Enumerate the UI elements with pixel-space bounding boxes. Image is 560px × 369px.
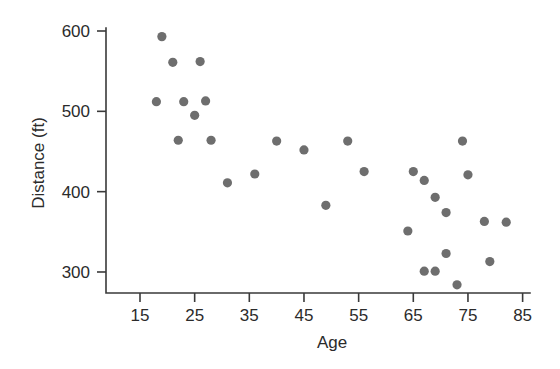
data-point bbox=[420, 176, 429, 185]
y-tick-label: 400 bbox=[62, 183, 90, 202]
data-point bbox=[343, 136, 352, 145]
x-tick-label: 85 bbox=[513, 306, 532, 325]
x-tick-label: 15 bbox=[131, 306, 150, 325]
data-point bbox=[196, 57, 205, 66]
x-tick-label: 25 bbox=[185, 306, 204, 325]
axes: 300400500600 1525354555657585 bbox=[62, 22, 532, 325]
x-tick-label: 65 bbox=[404, 306, 423, 325]
data-point bbox=[409, 167, 418, 176]
data-point bbox=[431, 193, 440, 202]
data-point bbox=[174, 136, 183, 145]
y-tick-label: 600 bbox=[62, 22, 90, 41]
x-tick-label: 55 bbox=[349, 306, 368, 325]
data-point bbox=[250, 169, 259, 178]
data-point bbox=[201, 96, 210, 105]
scatter-plot-figure: 300400500600 1525354555657585 Age Distan… bbox=[0, 0, 560, 369]
data-point bbox=[168, 58, 177, 67]
data-point bbox=[299, 145, 308, 154]
data-point bbox=[441, 249, 450, 258]
data-point bbox=[485, 257, 494, 266]
x-tick-label: 35 bbox=[240, 306, 259, 325]
data-point bbox=[321, 201, 330, 210]
data-point bbox=[190, 111, 199, 120]
plot-svg: 300400500600 1525354555657585 Age Distan… bbox=[0, 0, 560, 369]
data-point bbox=[431, 267, 440, 276]
data-point bbox=[452, 280, 461, 289]
y-axis-ticks bbox=[97, 31, 106, 272]
data-point bbox=[272, 136, 281, 145]
data-point bbox=[360, 167, 369, 176]
x-axis-title: Age bbox=[317, 333, 347, 352]
data-point bbox=[420, 267, 429, 276]
axis-lines bbox=[106, 28, 530, 293]
data-point bbox=[152, 97, 161, 106]
data-point bbox=[463, 170, 472, 179]
data-point bbox=[480, 217, 489, 226]
data-point bbox=[157, 32, 166, 41]
y-axis-title: Distance (ft) bbox=[29, 117, 48, 209]
x-axis-tick-labels: 1525354555657585 bbox=[131, 306, 533, 325]
data-point bbox=[179, 97, 188, 106]
y-tick-label: 300 bbox=[62, 263, 90, 282]
x-axis-ticks bbox=[140, 293, 523, 302]
x-tick-label: 45 bbox=[295, 306, 314, 325]
data-point bbox=[502, 218, 511, 227]
y-axis-tick-labels: 300400500600 bbox=[62, 22, 90, 282]
data-points bbox=[152, 32, 511, 289]
data-point bbox=[206, 136, 215, 145]
data-point bbox=[441, 208, 450, 217]
data-point bbox=[458, 136, 467, 145]
data-point bbox=[403, 226, 412, 235]
data-point bbox=[223, 178, 232, 187]
x-tick-label: 75 bbox=[458, 306, 477, 325]
y-tick-label: 500 bbox=[62, 102, 90, 121]
